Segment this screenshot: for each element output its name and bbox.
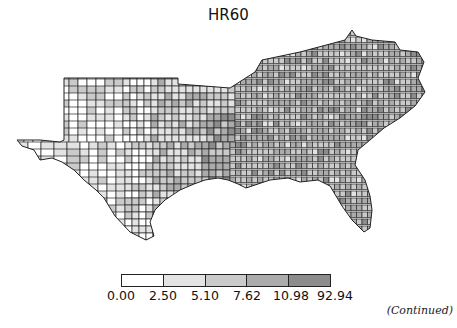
county-cell <box>15 51 24 60</box>
county-cell <box>228 72 235 79</box>
county-cell <box>367 58 373 64</box>
county-cell <box>96 51 105 60</box>
county-cell <box>329 233 335 239</box>
county-cell <box>137 100 144 107</box>
county-cell <box>312 114 318 120</box>
county-cell <box>258 198 264 204</box>
county-cell <box>246 135 252 141</box>
county-cell <box>214 51 221 58</box>
county-cell <box>395 100 401 106</box>
county-cell <box>296 107 302 113</box>
county-cell <box>395 30 401 36</box>
county-cell <box>340 93 346 99</box>
county-cell <box>207 58 214 65</box>
county-cell <box>28 170 41 183</box>
county-cell <box>367 86 373 92</box>
county-cell <box>33 44 42 53</box>
county-cell <box>130 128 137 135</box>
county-cell <box>33 93 42 102</box>
county-cell <box>15 128 24 137</box>
county-cell <box>291 156 297 162</box>
county-cell <box>340 65 346 71</box>
county-cell <box>221 93 228 100</box>
county-cell <box>137 86 144 93</box>
county-cell <box>179 121 186 128</box>
county-cell <box>228 100 235 107</box>
county-cell <box>345 107 351 113</box>
county-cell <box>318 72 324 78</box>
county-cell <box>302 240 308 246</box>
county-cell <box>412 198 418 204</box>
county-cell <box>195 198 202 205</box>
county-cell <box>307 156 313 162</box>
county-cell <box>230 142 236 148</box>
county-cell <box>139 142 146 149</box>
county-cell <box>285 86 291 92</box>
county-cell <box>329 51 335 57</box>
county-cell <box>417 86 423 92</box>
county-cell <box>406 86 412 92</box>
county-cell <box>132 219 139 226</box>
county-cell <box>153 142 160 149</box>
county-cell <box>246 107 252 113</box>
county-cell <box>417 135 423 141</box>
county-cell <box>318 93 324 99</box>
county-cell <box>329 205 335 211</box>
county-cell <box>334 65 340 71</box>
county-cell <box>80 219 89 228</box>
county-cell <box>428 51 434 57</box>
county-cell <box>174 170 181 177</box>
county-cell <box>15 198 28 211</box>
county-cell <box>125 142 132 149</box>
county-cell <box>351 198 357 204</box>
county-cell <box>96 65 105 74</box>
county-cell <box>296 128 302 134</box>
county-cell <box>285 226 291 232</box>
county-cell <box>89 240 98 249</box>
county-cell <box>395 233 401 239</box>
county-cell <box>51 128 60 137</box>
county-cell <box>379 163 385 169</box>
county-cell <box>15 177 28 190</box>
county-cell <box>263 212 269 218</box>
county-cell <box>60 37 69 46</box>
county-cell <box>188 163 195 170</box>
county-cell <box>307 142 313 148</box>
county-cell <box>335 142 341 148</box>
county-cell <box>389 107 395 113</box>
county-cell <box>41 212 54 225</box>
county-cell <box>279 114 285 120</box>
county-cell <box>367 100 373 106</box>
county-cell <box>174 149 181 156</box>
county-cell <box>241 128 247 134</box>
county-cell <box>335 219 341 225</box>
county-cell <box>340 149 346 155</box>
county-cell <box>346 233 352 239</box>
county-cell <box>241 72 247 78</box>
county-cell <box>307 170 313 176</box>
county-cell <box>345 65 351 71</box>
county-cell <box>80 198 89 207</box>
county-cell <box>312 51 318 57</box>
county-cell <box>417 30 423 36</box>
county-cell <box>307 191 313 197</box>
county-cell <box>188 177 195 184</box>
county-cell <box>137 51 144 58</box>
county-cell <box>165 30 172 37</box>
county-cell <box>252 240 258 246</box>
county-cell <box>246 114 252 120</box>
county-cell <box>274 100 280 106</box>
county-cell <box>137 107 144 114</box>
county-cell <box>174 156 181 163</box>
county-cell <box>60 65 69 74</box>
county-cell <box>51 107 60 116</box>
county-cell <box>123 79 130 86</box>
county-cell <box>28 198 41 211</box>
county-cell <box>188 198 195 205</box>
county-cell <box>165 128 172 135</box>
county-cell <box>241 177 247 183</box>
county-cell <box>105 37 114 46</box>
county-cell <box>296 219 302 225</box>
county-cell <box>67 240 80 253</box>
county-cell <box>263 226 269 232</box>
